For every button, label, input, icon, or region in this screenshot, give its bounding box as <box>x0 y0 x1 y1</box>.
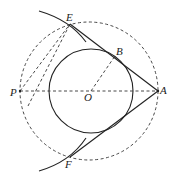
curve-lower <box>39 138 86 171</box>
label-f: F <box>64 158 72 170</box>
line-pe <box>20 24 70 91</box>
label-p: P <box>9 86 17 98</box>
label-a: A <box>159 84 167 96</box>
point-p <box>19 90 21 92</box>
tangent-ae <box>70 24 158 91</box>
geometry-diagram: E B P O A F <box>0 0 177 184</box>
label-e: E <box>65 11 73 23</box>
curve-upper <box>39 11 86 42</box>
line-ob <box>91 56 115 91</box>
label-b: B <box>116 45 123 57</box>
label-o: O <box>84 91 92 103</box>
point-a <box>157 90 159 92</box>
